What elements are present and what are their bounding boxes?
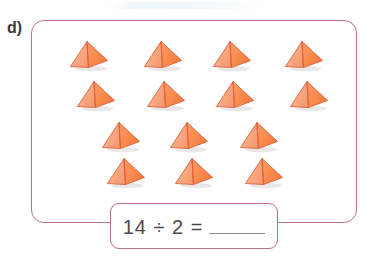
equation-expression: 14 ÷ 2 = bbox=[123, 216, 204, 239]
equation-box[interactable]: 14 ÷ 2 = bbox=[110, 203, 278, 249]
worksheet-item: d) 14 ÷ 2 = bbox=[0, 0, 374, 259]
item-label: d) bbox=[7, 20, 22, 36]
manipulative-panel bbox=[31, 20, 357, 223]
equation-inner: 14 ÷ 2 = bbox=[123, 216, 266, 239]
answer-blank[interactable] bbox=[209, 219, 265, 234]
scan-artifact bbox=[108, 2, 268, 9]
